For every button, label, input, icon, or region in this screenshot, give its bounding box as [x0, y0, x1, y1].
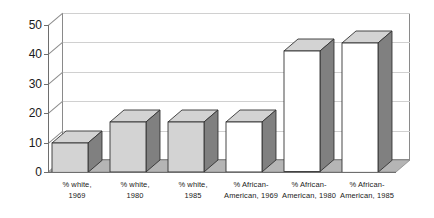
category-label-line: % African- — [276, 180, 342, 191]
category-label-line: % white, — [102, 180, 168, 191]
gridline-50 — [62, 13, 410, 14]
x-axis — [48, 172, 396, 173]
y-tick-mark-20 — [44, 113, 49, 114]
bar-1[interactable] — [52, 131, 104, 174]
category-label-6: % African-American, 1985 — [334, 180, 400, 202]
depth-connector-20 — [48, 101, 63, 114]
y-tick-mark-50 — [44, 25, 49, 26]
category-label-line: 1980 — [102, 191, 168, 202]
y-tick-mark-0 — [44, 172, 49, 173]
y-axis-tick-labels: 01020304050 — [8, 0, 42, 218]
bar-3[interactable] — [168, 110, 220, 174]
bar-4[interactable] — [226, 110, 278, 174]
category-label-2: % white,1980 — [102, 180, 168, 202]
depth-connector-30 — [48, 71, 63, 84]
y-axis — [48, 25, 49, 172]
category-label-line: % African- — [218, 180, 284, 191]
bar-chart: 01020304050 % white,1969% white,1980% wh… — [0, 0, 434, 218]
y-tick-mark-40 — [44, 54, 49, 55]
y-tick-label-50: 50 — [16, 19, 42, 31]
category-label-5: % African-American, 1980 — [276, 180, 342, 202]
bar-5[interactable] — [284, 39, 336, 174]
y-tick-mark-10 — [44, 143, 49, 144]
category-label-1: % white,1969 — [44, 180, 110, 202]
category-label-line: % African- — [334, 180, 400, 191]
bar-2[interactable] — [110, 110, 162, 174]
category-label-3: % white,1985 — [160, 180, 226, 202]
y-tick-label-30: 30 — [16, 78, 42, 90]
category-label-line: 1969 — [44, 191, 110, 202]
y-tick-label-20: 20 — [16, 107, 42, 119]
y-tick-label-10: 10 — [16, 137, 42, 149]
y-tick-mark-30 — [44, 84, 49, 85]
y-tick-label-40: 40 — [16, 48, 42, 60]
category-label-line: American, 1969 — [218, 191, 284, 202]
depth-connector-50 — [48, 13, 63, 26]
category-label-line: % white, — [160, 180, 226, 191]
category-label-4: % African-American, 1969 — [218, 180, 284, 202]
bar-6[interactable] — [342, 31, 394, 174]
category-label-line: American, 1985 — [334, 191, 400, 202]
category-label-line: American, 1980 — [276, 191, 342, 202]
depth-connector-40 — [48, 42, 63, 55]
category-label-line: 1985 — [160, 191, 226, 202]
category-label-line: % white, — [44, 180, 110, 191]
y-tick-label-0: 0 — [16, 166, 42, 178]
